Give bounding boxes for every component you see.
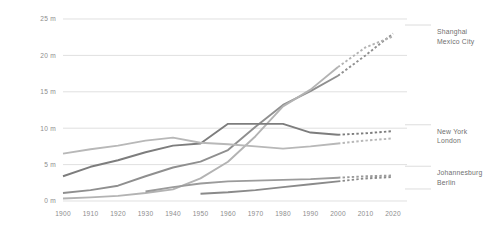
legend-label-johannesburg: Johannesburg (437, 169, 483, 177)
xtick-label-1980: 1980 (275, 210, 291, 217)
xtick-label-1910: 1910 (83, 210, 99, 217)
xtick-label-1920: 1920 (110, 210, 126, 217)
series-line-shanghai (63, 76, 338, 193)
series-line-london (63, 138, 338, 154)
series-projection-london (338, 138, 393, 143)
series-projection-new-york (338, 131, 393, 135)
xtick-label-1990: 1990 (303, 210, 319, 217)
xtick-label-2000: 2000 (330, 210, 346, 217)
ytick-label-0: 0 m (44, 197, 56, 204)
xtick-label-1940: 1940 (165, 210, 181, 217)
series-line-new-york (63, 124, 338, 176)
legend-label-mexico-city: Mexico City (437, 38, 475, 46)
population-line-chart: 0 m5 m10 m15 m20 m25 m190019101920193019… (0, 0, 483, 237)
xtick-label-1960: 1960 (220, 210, 236, 217)
legend-label-london: London (437, 137, 461, 144)
ytick-label-10: 10 m (40, 125, 56, 132)
xtick-label-1950: 1950 (193, 210, 209, 217)
xtick-label-2010: 2010 (358, 210, 374, 217)
series-line-berlin (201, 181, 339, 193)
xtick-label-1930: 1930 (138, 210, 154, 217)
ytick-label-5: 5 m (44, 161, 56, 168)
series-projection-mexico-city (338, 36, 393, 67)
legend-group: ShanghaiMexico CityNew YorkLondonJohanne… (405, 25, 483, 189)
ytick-label-25: 25 m (40, 15, 56, 22)
legend-label-new-york: New York (437, 128, 468, 135)
xtick-label-1900: 1900 (55, 210, 71, 217)
legend-label-berlin: Berlin (437, 179, 456, 186)
series-group (63, 34, 393, 199)
series-projection-berlin (338, 177, 393, 181)
xtick-label-1970: 1970 (248, 210, 264, 217)
legend-label-shanghai: Shanghai (437, 28, 468, 36)
series-projection-shanghai (338, 34, 393, 76)
chart-canvas: 0 m5 m10 m15 m20 m25 m190019101920193019… (0, 0, 483, 237)
xaxis-group: 1900191019201930194019501960197019801990… (55, 210, 401, 217)
xtick-label-2020: 2020 (385, 210, 401, 217)
ytick-label-15: 15 m (40, 88, 56, 95)
ytick-label-20: 20 m (40, 52, 56, 59)
